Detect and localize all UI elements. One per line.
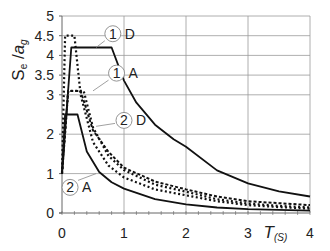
response-spectrum-chart: 1D1A2D2A 01233.544.5501234Se /agT(S) [0, 0, 330, 251]
x-tick-label: 3 [244, 225, 252, 241]
y-tick-label: 1 [46, 166, 54, 182]
annotation-number: 2 [120, 112, 128, 128]
annotation-letter: D [125, 26, 135, 42]
annotations: 1D1A2D2A [62, 26, 146, 196]
x-tick-label: 4 [306, 225, 314, 241]
annotation-number: 1 [109, 26, 117, 42]
x-tick-label: 2 [182, 225, 190, 241]
annotation-letter: A [129, 65, 139, 81]
annotation-leader [96, 123, 115, 126]
y-axis-title: Se /ag [9, 39, 29, 81]
annotation-number: 1 [113, 65, 121, 81]
annotation-letter: A [82, 179, 92, 195]
axis-labels: 01233.544.5501234Se /agT(S) [9, 8, 314, 243]
y-tick-label: 0 [46, 205, 54, 221]
annotation-leader [93, 80, 109, 91]
y-tick-label: 4 [46, 47, 54, 63]
axes [59, 16, 310, 215]
x-axis-title: T(S) [264, 223, 288, 243]
y-tick-label: 3 [46, 87, 54, 103]
annotation-letter: D [136, 112, 146, 128]
x-tick-label: 1 [120, 225, 128, 241]
annotation-leader [96, 41, 105, 48]
y-tick-label: 5 [46, 8, 54, 24]
y-tick-label: 2 [46, 126, 54, 142]
x-tick-label: 0 [58, 225, 66, 241]
y-tick-label: 3.5 [35, 67, 55, 83]
annotation-number: 2 [66, 179, 74, 195]
y-tick-label: 4.5 [35, 28, 55, 44]
